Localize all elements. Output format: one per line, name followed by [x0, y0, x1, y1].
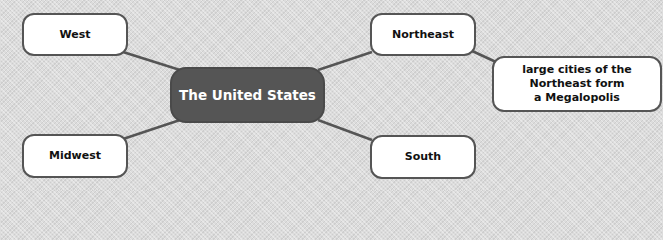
node-west[interactable]: West [22, 13, 128, 56]
node-midwest[interactable]: Midwest [22, 134, 128, 178]
node-south[interactable]: South [370, 135, 476, 179]
center-label: The United States [179, 88, 316, 102]
detail-line-1: large cities of the [522, 63, 632, 77]
node-west-label: West [59, 28, 90, 42]
link-center-midwest [123, 120, 180, 139]
node-south-label: South [405, 150, 441, 164]
detail-line-3: a Megalopolis [534, 91, 620, 105]
node-midwest-label: Midwest [49, 149, 101, 163]
node-northeast[interactable]: Northeast [370, 13, 476, 56]
node-northeast-detail[interactable]: large cities of the Northeast form a Meg… [492, 56, 662, 112]
node-center-united-states[interactable]: The United States [170, 67, 325, 123]
node-northeast-label: Northeast [392, 28, 454, 42]
detail-line-2: Northeast form [529, 77, 624, 91]
link-northeast-detail [470, 50, 496, 62]
link-center-northeast [318, 52, 372, 70]
link-center-west [123, 52, 180, 70]
link-center-south [318, 120, 372, 140]
